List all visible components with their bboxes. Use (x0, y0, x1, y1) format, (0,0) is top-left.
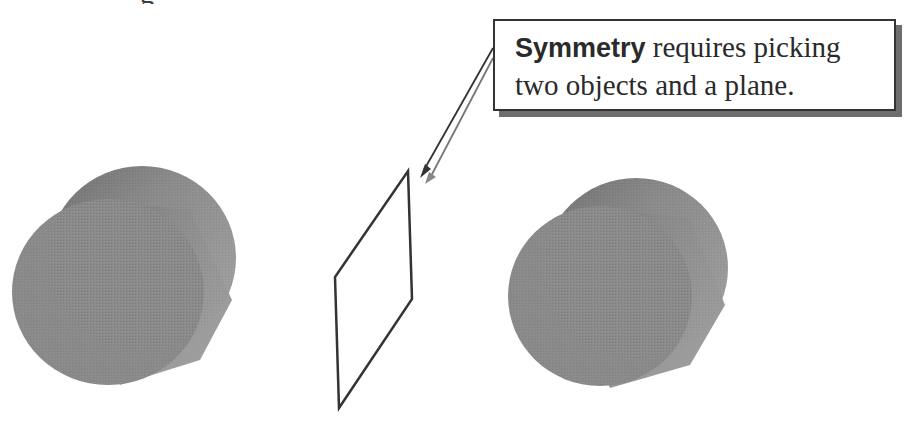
symmetry-plane[interactable] (335, 171, 412, 408)
callout-leader (420, 48, 493, 184)
symmetry-figure: g (0, 0, 922, 427)
callout-line1: requires picking (646, 31, 841, 63)
right-cylinder[interactable] (508, 178, 728, 388)
arrowhead-icon (425, 172, 436, 184)
callout-box: Symmetry requires picking two objects an… (493, 19, 896, 111)
callout-keyword: Symmetry (515, 33, 646, 63)
callout-text: Symmetry requires picking two objects an… (515, 29, 886, 104)
callout-line2: two objects and a plane. (515, 69, 794, 101)
left-cylinder[interactable] (12, 166, 236, 385)
